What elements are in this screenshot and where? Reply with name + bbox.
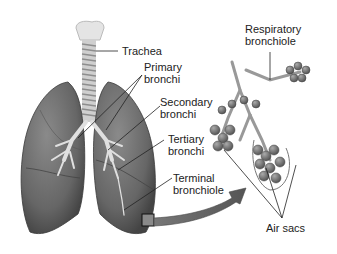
larynx xyxy=(76,21,104,40)
secondary-bronchi-line1: Secondary xyxy=(160,96,213,108)
trachea-shape xyxy=(82,40,96,122)
label-trachea: Trachea xyxy=(122,45,162,57)
secondary-bronchi-line2: bronchi xyxy=(160,108,213,120)
terminal-bronchiole-line1: Terminal xyxy=(173,172,224,184)
label-respiratory-bronchiole: Respiratory bronchiole xyxy=(245,23,301,47)
tertiary-bronchi-line1: Tertiary xyxy=(168,133,204,145)
label-secondary-bronchi: Secondary bronchi xyxy=(160,96,213,120)
air-sacs-text: Air sacs xyxy=(266,222,305,234)
inset-box xyxy=(142,214,154,226)
magnified-bronchioles xyxy=(210,62,310,190)
respiratory-bronchiole-line2: bronchiole xyxy=(245,35,301,47)
tertiary-bronchi-line2: bronchi xyxy=(168,145,204,157)
left-lung xyxy=(93,82,155,234)
trachea-text: Trachea xyxy=(122,45,162,57)
terminal-bronchiole-line2: bronchiole xyxy=(173,184,224,196)
primary-bronchi-line1: Primary xyxy=(144,61,182,73)
label-primary-bronchi: Primary bronchi xyxy=(144,61,182,85)
label-tertiary-bronchi: Tertiary bronchi xyxy=(168,133,204,157)
primary-bronchi-line2: bronchi xyxy=(144,73,182,85)
label-air-sacs: Air sacs xyxy=(266,222,305,234)
label-terminal-bronchiole: Terminal bronchiole xyxy=(173,172,224,196)
right-lung xyxy=(21,82,85,234)
respiratory-bronchiole-line1: Respiratory xyxy=(245,23,301,35)
